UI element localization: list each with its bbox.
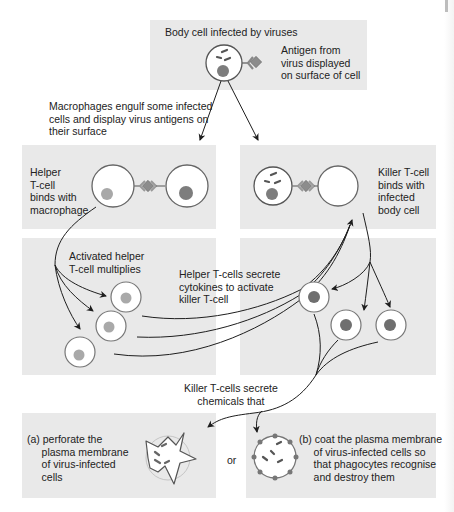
perforated-cell-icon: [146, 433, 196, 484]
label-cytokines: Helper T-cells secrete cytokines to acti…: [179, 268, 280, 306]
infected-body-cell-icon: [254, 167, 292, 205]
diagram-title: Body cell infected by viruses: [165, 26, 297, 39]
macrophage-icon: [166, 165, 208, 207]
label-helper-multiplies: Activated helper T-cell multiplies: [69, 250, 144, 275]
label-outcome-b: (b) coat the plasma membrane of virus-in…: [299, 433, 442, 483]
infected-body-cell-icon: [206, 45, 262, 81]
label-antigen: Antigen from virus displayed on surface …: [281, 44, 360, 82]
label-macrophages: Macrophages engulf some infected cells a…: [49, 100, 212, 138]
label-killer-binds: Killer T-cell binds with infected body c…: [378, 166, 429, 216]
coated-cell-icon: [252, 434, 299, 481]
label-outcome-a: (a) perforate the plasma membrane of vir…: [27, 433, 129, 483]
label-killer-secrete: Killer T-cells secrete chemicals that: [184, 382, 278, 407]
helper-t-cell-icon: [96, 311, 126, 341]
helper-t-cell-icon: [92, 165, 134, 207]
killer-t-cell-icon: [376, 310, 406, 340]
label-helper-binds: Helper T-cell binds with macrophage: [30, 166, 88, 216]
label-or: or: [227, 454, 236, 467]
killer-t-cell-icon: [331, 310, 361, 340]
killer-t-cell-icon: [318, 166, 358, 206]
helper-t-cell-icon: [111, 282, 141, 312]
killer-t-cell-icon: [299, 282, 329, 312]
helper-t-cell-icon: [65, 337, 95, 367]
